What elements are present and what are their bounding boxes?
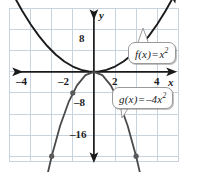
data-point	[70, 90, 75, 95]
annotation-g-base: –4x	[146, 93, 162, 105]
annotation-g-exp: 2	[162, 91, 166, 100]
annotation-f-lhs: f(x)	[135, 48, 151, 60]
data-point	[134, 154, 139, 159]
y-tick-neg8: –8	[74, 97, 85, 108]
x-tick-neg4: –4	[16, 76, 27, 87]
annotation-f-equation: f(x)=x2	[128, 42, 176, 64]
y-axis-label: y	[99, 10, 104, 21]
annotation-g-op: =	[138, 93, 146, 105]
y-tick-pos8: 8	[79, 33, 85, 44]
graph-figure: –4 –2 2 4 8 –8 –16 x y f(x)=x2 g(x)=–4x2	[0, 0, 209, 172]
coordinate-plane	[0, 0, 209, 172]
data-point	[49, 154, 54, 159]
annotation-g-lhs: g(x)	[119, 93, 138, 105]
y-tick-neg16: –16	[70, 129, 87, 140]
x-axis-label: x	[168, 77, 174, 88]
annotation-f-exp: 2	[165, 46, 169, 55]
x-tick-pos4: 4	[154, 76, 160, 87]
x-tick-neg2: –2	[58, 76, 69, 87]
annotation-g-equation: g(x)=–4x2	[112, 87, 173, 109]
x-tick-pos2: 2	[112, 76, 118, 87]
